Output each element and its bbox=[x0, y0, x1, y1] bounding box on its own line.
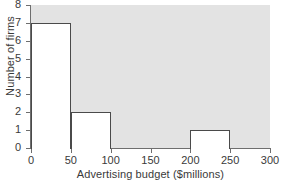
y-axis-label: Number of firms bbox=[4, 0, 16, 116]
y-tick-mark bbox=[26, 94, 30, 95]
x-tick-label: 300 bbox=[255, 155, 285, 166]
y-tick-mark bbox=[26, 59, 30, 60]
x-tick-label: 0 bbox=[16, 155, 46, 166]
y-tick-mark bbox=[26, 41, 30, 42]
y-tick-label: 1 bbox=[3, 124, 21, 135]
x-tick-mark bbox=[111, 149, 112, 153]
x-tick-label: 150 bbox=[136, 155, 166, 166]
x-tick-mark bbox=[230, 149, 231, 153]
histogram-bar bbox=[31, 23, 71, 149]
y-tick-mark bbox=[26, 148, 30, 149]
x-tick-label: 200 bbox=[175, 155, 205, 166]
x-axis-label: Advertising budget ($millions) bbox=[31, 168, 270, 180]
x-tick-mark bbox=[270, 149, 271, 153]
x-tick-mark bbox=[190, 149, 191, 153]
y-tick-mark bbox=[26, 130, 30, 131]
x-tick-label: 250 bbox=[215, 155, 245, 166]
histogram-figure: 012345678 050100150200250300 Number of f… bbox=[0, 0, 287, 185]
histogram-bar bbox=[190, 130, 230, 149]
histogram-bar bbox=[71, 112, 111, 149]
y-tick-mark bbox=[26, 77, 30, 78]
y-tick-mark bbox=[26, 5, 30, 6]
x-tick-label: 50 bbox=[56, 155, 86, 166]
x-tick-mark bbox=[31, 149, 32, 153]
x-tick-label: 100 bbox=[96, 155, 126, 166]
x-tick-mark bbox=[151, 149, 152, 153]
y-tick-mark bbox=[26, 23, 30, 24]
y-tick-label: 0 bbox=[3, 142, 21, 153]
y-tick-mark bbox=[26, 112, 30, 113]
x-tick-mark bbox=[71, 149, 72, 153]
